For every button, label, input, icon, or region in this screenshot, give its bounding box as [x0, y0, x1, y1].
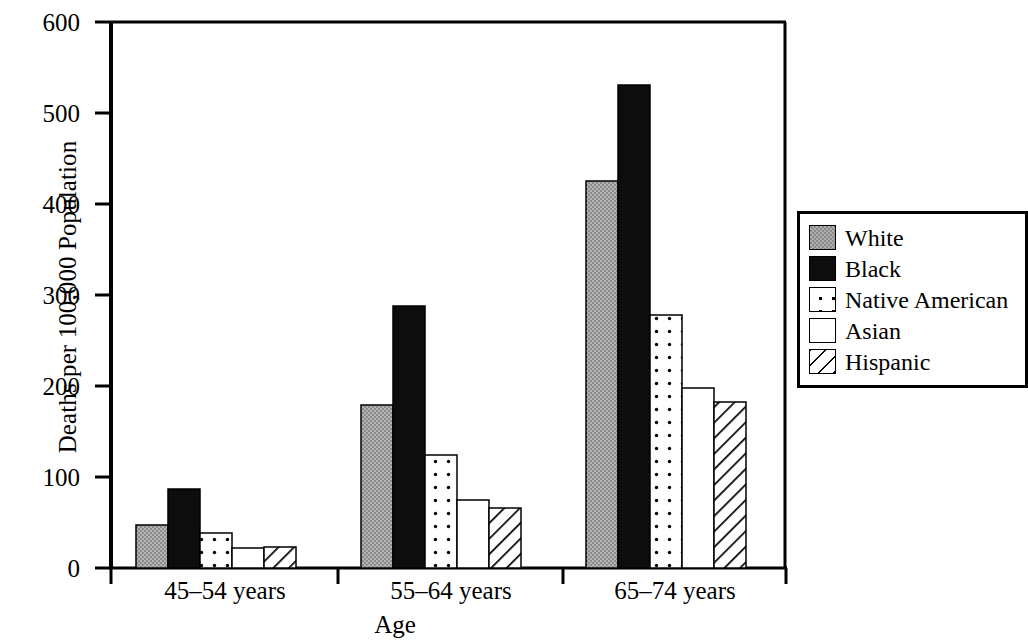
x-category-label-45-54: 45–54 years — [110, 578, 340, 603]
y-axis-ticks — [95, 22, 111, 568]
bar-45-54-white — [136, 525, 168, 568]
bar-45-54-asian — [232, 548, 264, 568]
legend-item-black: Black — [809, 253, 1018, 284]
legend-swatch-asian-icon — [809, 318, 836, 343]
legend-swatch-hispanic-icon — [809, 349, 836, 374]
legend-item-asian: Asian — [809, 315, 1018, 346]
y-tick-label-0: 0 — [18, 556, 80, 581]
bar-65-74-native-american — [650, 315, 682, 568]
legend-label-hispanic: Hispanic — [845, 350, 930, 374]
y-tick-label-300: 300 — [18, 283, 80, 308]
bar-group-45-54 — [136, 489, 296, 568]
legend-label-asian: Asian — [845, 319, 901, 343]
bar-group-55-64 — [361, 306, 521, 568]
y-tick-label-600: 600 — [18, 10, 80, 35]
bar-55-64-native-american — [425, 455, 457, 568]
legend-item-native-american: Native American — [809, 284, 1018, 315]
bar-45-54-black — [168, 489, 200, 568]
legend-label-white: White — [845, 226, 904, 250]
bar-group-65-74 — [586, 85, 746, 568]
bar-45-54-hispanic — [264, 547, 296, 568]
bar-65-74-white — [586, 181, 618, 568]
legend-swatch-white-icon — [809, 225, 836, 250]
legend-swatch-native-american-icon — [809, 287, 836, 312]
legend-label-native-american: Native American — [845, 288, 1008, 312]
x-category-label-65-74: 65–74 years — [560, 578, 790, 603]
y-tick-label-500: 500 — [18, 101, 80, 126]
bar-65-74-black — [618, 85, 650, 568]
bar-65-74-hispanic — [714, 402, 746, 568]
legend-swatch-black-icon — [809, 256, 836, 281]
bar-55-64-hispanic — [489, 508, 521, 568]
x-category-label-55-64: 55–64 years — [336, 578, 566, 603]
y-tick-label-100: 100 — [18, 465, 80, 490]
y-tick-label-200: 200 — [18, 374, 80, 399]
bar-55-64-white — [361, 405, 393, 568]
x-axis-title: Age — [0, 612, 790, 637]
y-tick-label-400: 400 — [18, 192, 80, 217]
legend-item-hispanic: Hispanic — [809, 346, 1018, 377]
bar-chart: Deaths per 100,000 Population 600 500 40… — [0, 0, 1028, 644]
bar-55-64-black — [393, 306, 425, 568]
bar-45-54-native-american — [200, 533, 232, 568]
legend-item-white: White — [809, 222, 1018, 253]
bar-65-74-asian — [682, 388, 714, 568]
legend-label-black: Black — [845, 257, 901, 281]
bar-55-64-asian — [457, 500, 489, 568]
legend: White Black Native American Asian Hispan… — [797, 211, 1028, 388]
